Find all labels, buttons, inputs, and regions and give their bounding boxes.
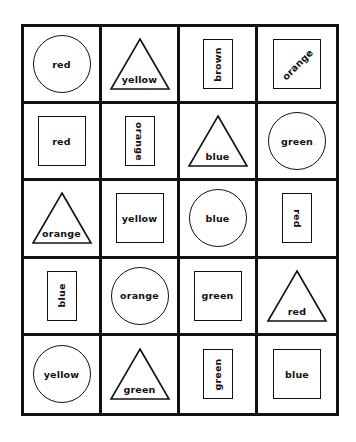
shape-label: green — [281, 136, 313, 147]
cell-r3-c2: yellow — [102, 181, 180, 258]
cell-r1-c2: yellow — [102, 27, 180, 104]
shape-label: green — [212, 358, 223, 390]
rectangle-shape: orange — [125, 116, 155, 166]
circle-shape: orange — [111, 267, 169, 325]
shape-label: yellow — [44, 369, 80, 380]
shape-label: red — [52, 59, 71, 70]
shape-label: brown — [212, 47, 223, 82]
circle-shape: green — [268, 112, 326, 170]
shape-label: blue — [205, 213, 229, 224]
square-shape: yellow — [116, 193, 164, 243]
cell-r1-c3: brown — [180, 27, 258, 104]
triangle-shape: green — [109, 347, 171, 401]
rectangle-shape: brown — [203, 39, 233, 89]
triangle-shape: orange — [31, 191, 93, 245]
cell-r3-c1: orange — [24, 181, 102, 258]
shape-label: blue — [285, 369, 309, 380]
cell-r4-c2: orange — [102, 259, 180, 336]
cell-r5-c3: green — [180, 336, 258, 413]
circle-shape: blue — [189, 189, 247, 247]
cell-r1-c4: orange — [258, 27, 336, 104]
shape-color-grid: red yellow brown orange red orange blue — [21, 24, 339, 416]
shape-label: green — [201, 290, 233, 301]
shape-label: red — [292, 209, 303, 228]
cell-r3-c4: red — [258, 181, 336, 258]
cell-r3-c3: blue — [180, 181, 258, 258]
cell-r4-c3: green — [180, 259, 258, 336]
triangle-shape: blue — [187, 114, 249, 168]
cell-r5-c2: green — [102, 336, 180, 413]
circle-shape: red — [33, 35, 91, 93]
triangle-shape: yellow — [109, 37, 171, 91]
cell-r2-c1: red — [24, 104, 102, 181]
rectangle-shape: green — [203, 349, 233, 399]
shape-label: orange — [279, 46, 314, 81]
shape-label: blue — [56, 284, 67, 308]
square-shape: green — [194, 271, 242, 321]
cell-r2-c2: orange — [102, 104, 180, 181]
cell-r2-c3: blue — [180, 104, 258, 181]
cell-r4-c1: blue — [24, 259, 102, 336]
shape-label: orange — [31, 228, 93, 239]
shape-label: red — [266, 306, 328, 317]
shape-label: yellow — [122, 213, 158, 224]
shape-label: orange — [134, 122, 145, 161]
shape-label: orange — [120, 290, 159, 301]
shape-label: blue — [187, 151, 249, 162]
shape-label: yellow — [109, 74, 171, 85]
shape-label: green — [109, 384, 171, 395]
cell-r5-c1: yellow — [24, 336, 102, 413]
square-shape: blue — [273, 349, 321, 399]
cell-r5-c4: blue — [258, 336, 336, 413]
triangle-shape: red — [266, 269, 328, 323]
rectangle-shape: blue — [47, 271, 77, 321]
shape-label: red — [52, 136, 71, 147]
cell-r2-c4: green — [258, 104, 336, 181]
square-shape: orange — [273, 39, 321, 89]
cell-r1-c1: red — [24, 27, 102, 104]
cell-r4-c4: red — [258, 259, 336, 336]
rectangle-shape: red — [282, 193, 312, 243]
circle-shape: yellow — [33, 345, 91, 403]
square-shape: red — [38, 116, 86, 166]
